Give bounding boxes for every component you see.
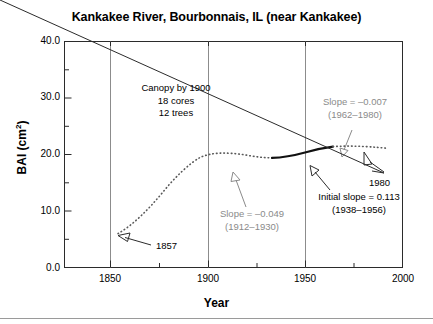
figure-container: Kankakee River, Bourbonnais, IL (near Ka… — [0, 0, 433, 324]
annotation-slope-1962-1980: Slope = –0.007 (1962–1980) — [303, 96, 407, 121]
canopy-note-line-1: Canopy by 1900 — [122, 82, 230, 95]
slope-1912-1930-line-1: Slope = –0.049 — [200, 208, 304, 221]
x-axis-top-ticks — [111, 42, 306, 47]
footer-divider — [0, 318, 433, 319]
slope-1962-1980-line-1: Slope = –0.007 — [303, 96, 407, 109]
callout-arrow-slope-1962-1980 — [340, 130, 352, 157]
y-axis-major-ticks — [65, 42, 72, 268]
series-solid-1938-1962 — [272, 147, 333, 158]
canopy-note-line-3: 12 trees — [122, 107, 230, 120]
callout-arrow-slope-1912-1930 — [231, 172, 246, 207]
plot-area — [0, 0, 433, 324]
point-label-1857: 1857 — [156, 240, 177, 253]
plot-frame — [65, 42, 403, 268]
callout-arrow-1857 — [118, 233, 151, 245]
annotation-slope-1912-1930: Slope = –0.049 (1912–1930) — [200, 208, 304, 233]
slope-1912-1930-line-2: (1912–1930) — [200, 221, 304, 234]
point-label-1980: 1980 — [369, 177, 390, 190]
callout-arrow-initial-slope — [310, 166, 330, 191]
initial-slope-line-1: Initial slope = 0.113 — [303, 191, 415, 204]
canopy-note-line-2: 18 cores — [122, 95, 230, 108]
slope-1962-1980-line-2: (1962–1980) — [303, 109, 407, 122]
x-axis-minor-ticks — [65, 263, 355, 268]
initial-slope-line-2: (1938–1956) — [303, 204, 415, 217]
annotation-canopy-note: Canopy by 1900 18 cores 12 trees — [122, 82, 230, 120]
annotation-initial-slope: Initial slope = 0.113 (1938–1956) — [303, 191, 415, 216]
